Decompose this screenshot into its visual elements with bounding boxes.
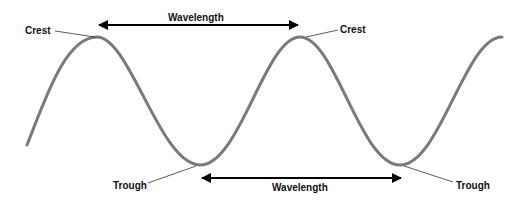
leader-line-trough-right	[404, 166, 453, 182]
wavelength-label-bottom: Wavelength	[272, 182, 328, 194]
wave-diagram: Crest Crest Wavelength Trough Wavelength…	[0, 0, 522, 204]
leader-line-crest-right	[306, 30, 338, 37]
wave-graphic	[0, 0, 522, 204]
crest-label-right: Crest	[340, 24, 366, 36]
leader-line-crest-left	[55, 31, 95, 37]
leader-line-trough-left	[148, 166, 196, 183]
trough-label-left: Trough	[113, 180, 147, 192]
trough-label-right: Trough	[456, 180, 490, 192]
wave-curve	[27, 37, 502, 165]
crest-label-left: Crest	[25, 25, 51, 37]
wavelength-label-top: Wavelength	[168, 12, 224, 24]
